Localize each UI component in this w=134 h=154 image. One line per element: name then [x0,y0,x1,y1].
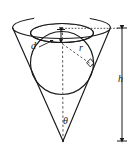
label-r: r [79,43,83,53]
sphere-top-ellipse-restroke [31,24,94,43]
radius-dashed-leader [63,44,92,65]
inscribed-sphere [31,32,94,95]
cone-apex [62,140,64,142]
label-d: d [31,41,36,51]
inverted-cone [13,28,111,142]
cone-slant-lines [13,28,111,142]
figure-canvas [0,0,134,154]
height-dimension-arrow [117,28,127,141]
label-theta: θ [63,116,68,126]
geometry-figure: d r h θ [0,0,134,154]
label-h: h [118,74,123,84]
